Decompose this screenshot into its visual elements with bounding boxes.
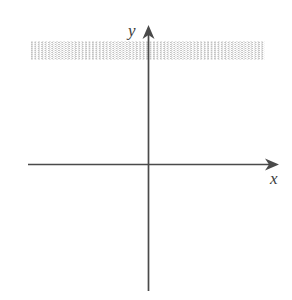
coordinate-grid-figure: y x bbox=[0, 0, 292, 300]
gridlines-layer bbox=[31, 41, 265, 285]
gridline-minor-horizontal bbox=[31, 59, 265, 60]
y-axis-arrowhead-icon bbox=[143, 25, 155, 39]
y-axis-label: y bbox=[128, 22, 136, 39]
x-axis-label: x bbox=[270, 170, 278, 187]
